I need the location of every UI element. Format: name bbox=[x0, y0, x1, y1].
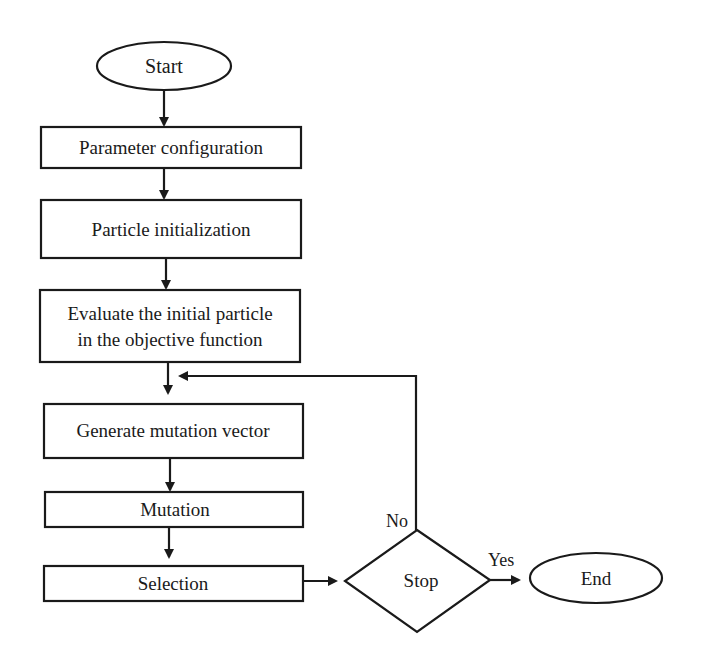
no-label: No bbox=[386, 511, 408, 531]
step-label: Mutation bbox=[140, 499, 210, 520]
start-label: Start bbox=[145, 55, 183, 77]
step-label-line-1: Evaluate the initial particle bbox=[67, 303, 272, 324]
step-particle-initialization: Particle initialization bbox=[41, 200, 301, 258]
step-label-line-2: in the objective function bbox=[77, 329, 263, 350]
step-parameter-configuration: Parameter configuration bbox=[41, 127, 301, 168]
step-label: Selection bbox=[138, 573, 209, 594]
step-evaluate-initial-particle: Evaluate the initial particle in the obj… bbox=[40, 290, 300, 362]
decision-stop: Stop bbox=[345, 530, 490, 632]
step-mutation: Mutation bbox=[45, 492, 303, 527]
yes-label: Yes bbox=[488, 550, 514, 570]
step-selection: Selection bbox=[44, 566, 303, 601]
step-label: Generate mutation vector bbox=[76, 420, 270, 441]
start-terminal: Start bbox=[97, 42, 231, 90]
flowchart-diagram: Start Parameter configuration Particle i… bbox=[0, 0, 705, 661]
step-label: Particle initialization bbox=[92, 219, 251, 240]
decision-label: Stop bbox=[404, 570, 439, 591]
step-label: Parameter configuration bbox=[79, 137, 264, 158]
end-terminal: End bbox=[530, 553, 662, 603]
step-generate-mutation-vector: Generate mutation vector bbox=[44, 404, 303, 458]
end-label: End bbox=[581, 568, 612, 589]
